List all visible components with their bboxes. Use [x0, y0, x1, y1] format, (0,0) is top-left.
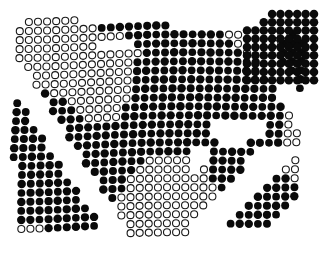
dot-field-canvas: [0, 0, 329, 256]
halftone-artwork: [0, 0, 329, 256]
